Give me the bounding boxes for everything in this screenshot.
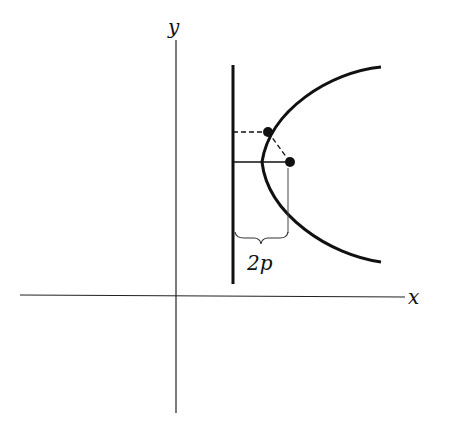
diagram-canvas: x y 2p bbox=[0, 0, 453, 429]
x-axis bbox=[20, 295, 405, 297]
parabola-curve bbox=[262, 67, 381, 262]
parabola-diagram: x y 2p bbox=[0, 0, 453, 429]
x-axis-label: x bbox=[408, 285, 419, 309]
point-on-parabola bbox=[263, 127, 273, 137]
y-axis-label: y bbox=[167, 15, 180, 39]
brace-2p bbox=[235, 232, 288, 244]
focus-point bbox=[285, 157, 295, 167]
brace-label-2p: 2p bbox=[246, 251, 273, 275]
